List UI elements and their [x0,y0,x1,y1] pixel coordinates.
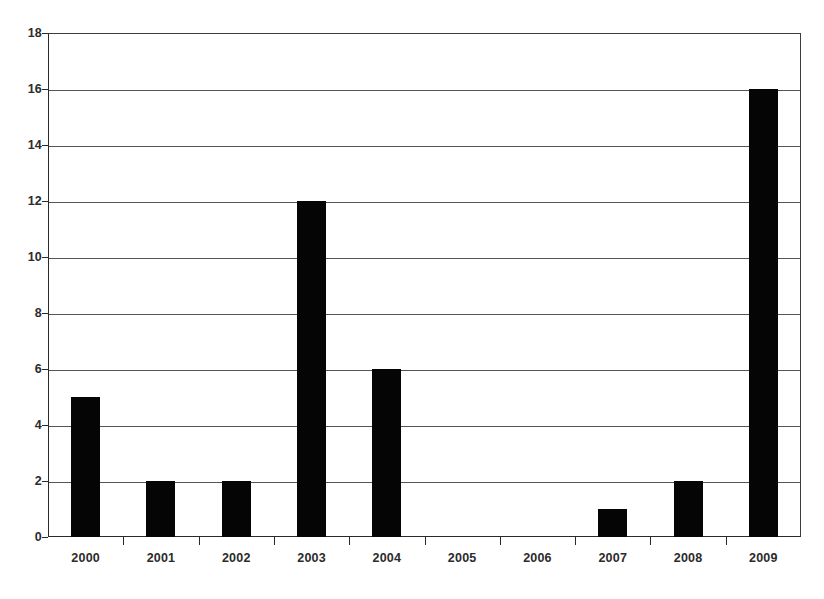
bar-2001 [146,481,175,537]
y-axis: 024681012141618 [0,33,42,537]
y-tick-label-6: 6 [8,362,42,376]
x-tickmark-8 [650,537,651,545]
x-tick-label-2000: 2000 [71,551,100,565]
x-axis-labels: 2000200120022003200420052006200720082009 [48,551,801,573]
y-tick-label-12: 12 [8,194,42,208]
x-tickmark-7 [575,537,576,545]
x-tick-label-2008: 2008 [674,551,703,565]
bar-2008 [674,481,703,537]
x-tickmark-5 [425,537,426,545]
y-tick-label-10: 10 [8,250,42,264]
x-tickmark-4 [349,537,350,545]
x-axis-ticks [48,537,801,546]
bar-chart: 024681012141618 200020012002200320042005… [0,0,824,599]
y-tick-label-0: 0 [8,530,42,544]
y-tick-label-4: 4 [8,418,42,432]
y-tick-label-16: 16 [8,82,42,96]
x-tick-label-2005: 2005 [448,551,477,565]
bar-2003 [297,201,326,537]
x-tick-label-2004: 2004 [373,551,402,565]
bar-2004 [372,369,401,537]
x-tickmark-3 [274,537,275,545]
bar-2007 [598,509,627,537]
x-tick-label-2003: 2003 [297,551,326,565]
x-tickmark-2 [199,537,200,545]
x-tickmark-9 [726,537,727,545]
x-tick-label-2007: 2007 [598,551,627,565]
x-tick-label-2001: 2001 [147,551,176,565]
x-tick-label-2002: 2002 [222,551,251,565]
x-tick-label-2006: 2006 [523,551,552,565]
x-tickmark-1 [123,537,124,545]
y-tick-label-2: 2 [8,474,42,488]
x-tickmark-6 [500,537,501,545]
bar-2000 [71,397,100,537]
bars-container [48,33,801,537]
y-tick-label-8: 8 [8,306,42,320]
bar-2002 [222,481,251,537]
x-tick-label-2009: 2009 [749,551,778,565]
y-tick-label-14: 14 [8,138,42,152]
bar-2009 [749,89,778,537]
y-tick-label-18: 18 [8,26,42,40]
